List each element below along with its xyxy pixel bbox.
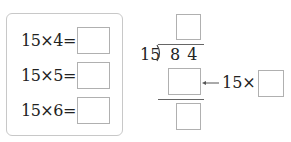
multiplication-row: 15×6= [21,97,110,124]
product-box[interactable] [168,68,201,95]
division-bracket-icon [155,44,163,62]
remainder-box[interactable] [176,103,201,130]
multiplier-box[interactable] [258,70,284,97]
multiplication-panel: 15×4= 15×5= 15×6= [6,13,123,136]
multiplication-row: 15×4= [21,27,110,54]
expression: 15×5= [21,66,76,85]
subtraction-line [158,99,204,100]
answer-box[interactable] [77,62,110,89]
quotient-box[interactable] [176,14,201,40]
answer-box[interactable] [77,27,110,54]
dividend: 8 4 [170,47,198,63]
answer-box[interactable] [77,97,110,124]
expression: 15×4= [21,31,76,50]
expression: 15×6= [21,101,76,120]
annotation-prefix: 15× [222,75,256,91]
multiplication-row: 15×5= [21,62,110,89]
arrow-left-icon [201,79,220,87]
